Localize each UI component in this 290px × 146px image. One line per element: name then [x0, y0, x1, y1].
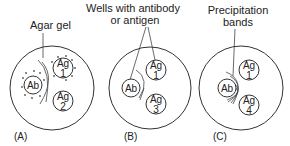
wells-pointer-ab: [130, 27, 146, 80]
panel-b: Wells with antibody or antigen Ab Ag 1 A…: [86, 2, 191, 142]
agar-plate-c: [199, 46, 283, 130]
panel-caption-c: (C): [213, 131, 227, 142]
precip-label-line1: Precipitation: [208, 4, 269, 16]
precip-pointer: [233, 29, 235, 76]
well-number: 1: [60, 68, 66, 79]
well-ag1-c: Ag 1: [239, 60, 259, 81]
well-ab-b: Ab: [122, 79, 140, 97]
wells-label-line1: Wells with antibody: [86, 2, 180, 14]
panel-caption-b: (B): [124, 131, 137, 142]
wells-label-line2: or antigen: [111, 14, 160, 26]
well-label: Ab: [27, 80, 40, 91]
well-ag1-a: Ag 1: [53, 58, 73, 79]
panel-a: Agar gel Ab Ag 1 Ag: [10, 19, 94, 142]
well-number: 1: [246, 70, 252, 81]
well-number: 4: [246, 105, 252, 116]
well-ag4-c: Ag 4: [239, 95, 259, 116]
wells-pointer-ag: [148, 27, 155, 60]
well-ag2-a: Ag 2: [53, 91, 73, 112]
panel-c: Precipitation bands Ab Ag 1 Ag 4 (C): [199, 4, 283, 142]
immunodiffusion-diagram: Agar gel Ab Ag 1 Ag: [0, 0, 290, 146]
well-ab-c: Ab: [218, 79, 236, 97]
well-ab-a: Ab: [24, 76, 42, 94]
well-number: 3: [153, 104, 159, 115]
agar-plate-a: [10, 46, 94, 130]
well-number: 2: [60, 101, 66, 112]
well-label: Ab: [221, 83, 234, 94]
panel-caption-a: (A): [14, 131, 27, 142]
well-ag1-b: Ag 1: [146, 60, 166, 81]
agar-gel-label: Agar gel: [30, 19, 71, 31]
well-label: Ab: [125, 83, 138, 94]
precip-label-line2: bands: [223, 16, 253, 28]
well-ag3-b: Ag 3: [146, 94, 166, 115]
well-number: 1: [153, 70, 159, 81]
